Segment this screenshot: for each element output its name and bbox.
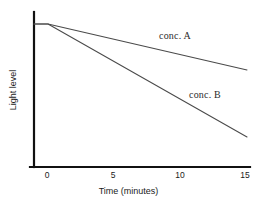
x-tick-label-10: 10 [170,170,190,180]
series-label-conc-b: conc. B [189,89,221,100]
x-tick-label-0: 0 [37,170,57,180]
series-label-conc-a: conc. A [159,30,191,41]
x-tick-label-15: 15 [235,170,255,180]
x-axis-title: Time (minutes) [0,186,257,196]
series-line-conc-b [34,24,247,137]
y-axis-title: Light level [8,55,18,125]
line-chart-figure: 0 5 10 15 Time (minutes) Light level con… [0,0,257,205]
series-line-conc-a [34,24,247,70]
x-tick-label-5: 5 [103,170,123,180]
